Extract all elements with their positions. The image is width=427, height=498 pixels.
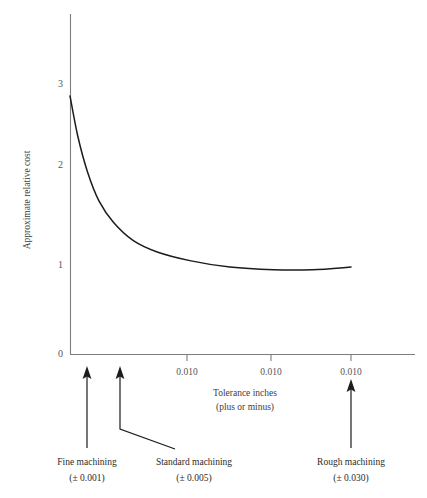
x-axis-title-line1: Tolerance inches [213,388,277,398]
x-tick-marks [187,355,351,362]
x-tick-label-1: 0.010 [176,367,198,377]
chart-canvas: 3 2 1 0 0.010 0.010 0.010 Approximate re… [0,0,427,498]
y-axis-title: Approximate relative cost [22,150,32,249]
cost-vs-tolerance-chart: 3 2 1 0 0.010 0.010 0.010 Approximate re… [0,0,427,498]
y-tick-labels: 3 2 1 0 [58,78,63,359]
callout-standard-machining: Standard machining (± 0.005) [116,366,233,484]
y-tick-label-3: 3 [58,78,63,89]
x-tick-labels: 0.010 0.010 0.010 [176,367,362,377]
y-tick-label-1: 1 [58,259,63,270]
cost-curve [70,96,351,270]
fine-machining-tolerance: (± 0.001) [69,473,104,484]
x-axis-title-line2: (plus or minus) [216,402,274,413]
x-tick-label-3: 0.010 [340,367,362,377]
x-axis-title: Tolerance inches (plus or minus) [213,388,277,413]
standard-machining-leader-line [120,374,175,449]
x-tick-label-2: 0.010 [260,367,282,377]
callout-fine-machining: Fine machining (± 0.001) [57,366,117,484]
rough-machining-label: Rough machining [317,457,385,467]
callout-rough-machining: Rough machining (± 0.030) [317,379,385,484]
standard-machining-label: Standard machining [156,457,232,467]
y-tick-label-0: 0 [58,348,63,359]
rough-machining-tolerance: (± 0.030) [333,473,368,484]
y-tick-label-2: 2 [58,159,63,170]
standard-machining-tolerance: (± 0.005) [176,473,211,484]
axis-group [70,14,415,355]
fine-machining-label: Fine machining [57,457,117,467]
